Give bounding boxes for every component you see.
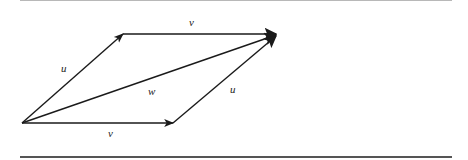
vector-u-left [22, 34, 123, 123]
vector-parallelogram-diagram: v⃗ u⃗ w⃗ u⃗ v⃗ [0, 0, 468, 160]
label-u-right: u⃗ [230, 83, 244, 95]
label-w-diagonal: w⃗ [148, 85, 164, 97]
bottom-rule [20, 156, 452, 158]
label-u-left: u⃗ [61, 62, 75, 74]
vector-w-diagonal [22, 35, 276, 123]
label-v-top: v⃗ [189, 16, 202, 28]
vector-u-right [173, 36, 276, 123]
label-v-bottom: v⃗ [108, 127, 121, 139]
